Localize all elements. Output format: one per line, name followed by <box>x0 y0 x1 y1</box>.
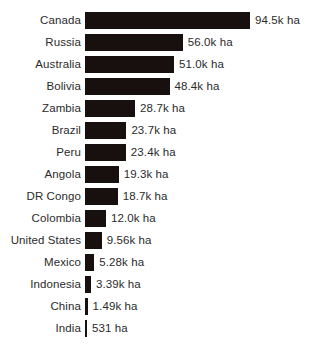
category-label: DR Congo <box>0 188 81 205</box>
value-label: 5.28k ha <box>99 254 144 271</box>
category-label: Angola <box>0 166 81 183</box>
bar-zone: 56.0k ha <box>85 34 324 51</box>
bar-row: Canada94.5k ha <box>0 12 324 29</box>
category-label: Australia <box>0 56 81 73</box>
value-label: 51.0k ha <box>179 56 224 73</box>
bar <box>85 298 88 315</box>
bar-row: DR Congo18.7k ha <box>0 188 324 205</box>
bar <box>85 254 94 271</box>
bar-row: Zambia28.7k ha <box>0 100 324 117</box>
bar-row: Bolivia48.4k ha <box>0 78 324 95</box>
bar-zone: 5.28k ha <box>85 254 324 271</box>
bar-row: United States9.56k ha <box>0 232 324 249</box>
bar-zone: 1.49k ha <box>85 298 324 315</box>
horizontal-bar-chart: Canada94.5k haRussia56.0k haAustralia51.… <box>0 0 324 349</box>
value-label: 1.49k ha <box>93 298 138 315</box>
category-label: Colombia <box>0 210 81 227</box>
value-label: 23.7k ha <box>131 122 176 139</box>
bar-row: Russia56.0k ha <box>0 34 324 51</box>
bar-row: Brazil23.7k ha <box>0 122 324 139</box>
bar <box>85 56 174 73</box>
value-label: 28.7k ha <box>140 100 185 117</box>
category-label: Canada <box>0 12 81 29</box>
bar-zone: 51.0k ha <box>85 56 324 73</box>
value-label: 12.0k ha <box>111 210 156 227</box>
value-label: 23.4k ha <box>131 144 176 161</box>
bar-row: China1.49k ha <box>0 298 324 315</box>
bar-zone: 9.56k ha <box>85 232 324 249</box>
value-label: 19.3k ha <box>124 166 169 183</box>
category-label: United States <box>0 232 81 249</box>
bar-row: Angola19.3k ha <box>0 166 324 183</box>
category-label: India <box>0 320 81 337</box>
bar-row: Mexico5.28k ha <box>0 254 324 271</box>
bar-zone: 531 ha <box>85 320 324 337</box>
bar <box>85 188 118 205</box>
bar <box>85 34 183 51</box>
bar <box>85 210 106 227</box>
value-label: 18.7k ha <box>123 188 168 205</box>
category-label: Russia <box>0 34 81 51</box>
bar <box>85 100 135 117</box>
bar-zone: 23.7k ha <box>85 122 324 139</box>
bar <box>85 232 102 249</box>
value-label: 48.4k ha <box>175 78 220 95</box>
bar-rows-container: Canada94.5k haRussia56.0k haAustralia51.… <box>0 12 324 337</box>
bar-zone: 48.4k ha <box>85 78 324 95</box>
category-label: Zambia <box>0 100 81 117</box>
bar-zone: 28.7k ha <box>85 100 324 117</box>
bar-zone: 23.4k ha <box>85 144 324 161</box>
category-label: Bolivia <box>0 78 81 95</box>
bar-zone: 94.5k ha <box>85 12 324 29</box>
category-label: Indonesia <box>0 276 81 293</box>
bar <box>85 12 250 29</box>
bar <box>85 122 126 139</box>
bar-zone: 19.3k ha <box>85 166 324 183</box>
category-label: Mexico <box>0 254 81 271</box>
bar-row: India531 ha <box>0 320 324 337</box>
bar-row: Australia51.0k ha <box>0 56 324 73</box>
value-label: 3.39k ha <box>96 276 141 293</box>
value-label: 531 ha <box>92 320 128 337</box>
category-label: Peru <box>0 144 81 161</box>
value-label: 9.56k ha <box>107 232 152 249</box>
bar-row: Indonesia3.39k ha <box>0 276 324 293</box>
category-label: Brazil <box>0 122 81 139</box>
category-label: China <box>0 298 81 315</box>
value-label: 94.5k ha <box>255 12 300 29</box>
bar-row: Colombia12.0k ha <box>0 210 324 227</box>
bar <box>85 166 119 183</box>
bar <box>85 320 87 337</box>
bar-row: Peru23.4k ha <box>0 144 324 161</box>
bar <box>85 144 126 161</box>
bar <box>85 78 170 95</box>
bar-zone: 3.39k ha <box>85 276 324 293</box>
value-label: 56.0k ha <box>188 34 233 51</box>
bar <box>85 276 91 293</box>
bar-zone: 12.0k ha <box>85 210 324 227</box>
bar-zone: 18.7k ha <box>85 188 324 205</box>
